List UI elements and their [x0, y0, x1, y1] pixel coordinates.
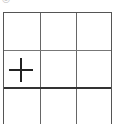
grid-cell[interactable]	[77, 13, 112, 50]
grid-cell[interactable]	[41, 13, 76, 50]
grid-cell[interactable]	[41, 89, 76, 124]
grid-cell[interactable]	[77, 51, 112, 87]
grid-cell[interactable]	[41, 51, 76, 87]
grid-cell[interactable]	[4, 13, 40, 50]
grid-cell[interactable]	[4, 89, 40, 124]
grid-cell[interactable]	[77, 89, 112, 124]
cropped-header-text: ◎ ◦ ◦	[2, 0, 56, 2]
plus-icon[interactable]	[9, 58, 33, 82]
